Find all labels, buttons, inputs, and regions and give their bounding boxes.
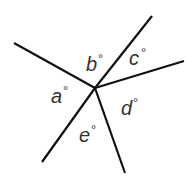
degree-symbol-e: °: [91, 122, 96, 137]
degree-symbol-b: °: [98, 51, 103, 66]
angle-label-c: c: [129, 47, 139, 69]
ray-right: [95, 61, 184, 88]
degree-symbol-c: °: [141, 45, 146, 60]
angle-label-a: a: [51, 85, 62, 107]
angle-label-e: e: [79, 124, 90, 146]
angle-label-d: d: [121, 97, 133, 119]
ray-upper-left: [14, 43, 95, 88]
angle-label-b: b: [86, 53, 97, 75]
angles-diagram: b ° c ° a ° d ° e °: [0, 0, 189, 181]
degree-symbol-a: °: [63, 83, 68, 98]
degree-symbol-d: °: [133, 95, 138, 110]
